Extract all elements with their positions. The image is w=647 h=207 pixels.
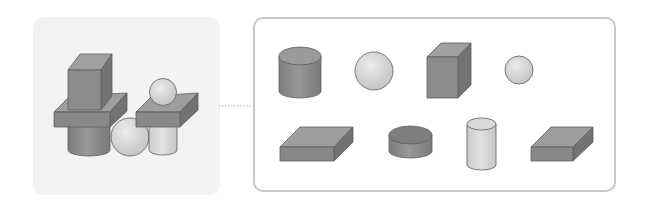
composite-sphere-small — [150, 79, 177, 106]
part-sphere — [355, 52, 393, 90]
part-cylinder — [279, 47, 321, 98]
shapes-canvas — [0, 0, 647, 207]
part-disc — [389, 126, 432, 158]
part-sphere-small — [505, 56, 533, 84]
part-cube — [427, 43, 471, 98]
part-cylinder-small — [467, 118, 496, 170]
part-slab-left — [280, 127, 353, 161]
part-slab-right — [531, 127, 593, 161]
composite-structure — [54, 54, 198, 156]
composite-cube — [68, 54, 112, 110]
parts — [279, 43, 593, 170]
